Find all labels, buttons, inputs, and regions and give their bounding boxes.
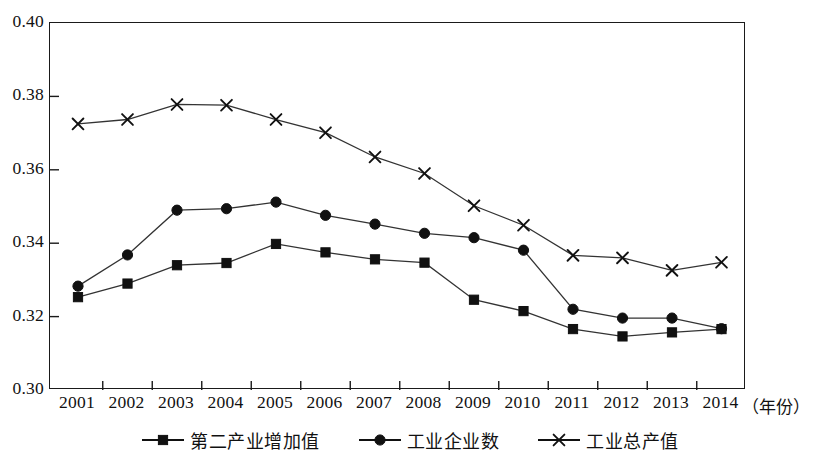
x-axis-tick-label: 2009 [449,394,497,412]
legend-marker-x-icon [537,432,581,448]
x-axis-tick-label: 2013 [647,394,695,412]
legend-item-label: 工业企业数 [407,427,500,453]
legend-item-label: 工业总产值 [586,427,679,453]
legend-item[interactable]: 工业企业数 [358,427,500,453]
x-axis-tick-label: 2012 [598,394,646,412]
chart-page: 0.400.380.360.340.320.30 200120022003200… [0,0,820,461]
legend-item[interactable]: 第二产业增加值 [141,427,320,453]
x-axis-tick-label: 2004 [202,394,250,412]
x-axis-tick-label: 2003 [152,394,200,412]
x-axis-tick-label: 2010 [499,394,547,412]
legend-item[interactable]: 工业总产值 [537,427,679,453]
x-axis-tick-label: 2011 [548,394,596,412]
x-axis-tick-label: 2005 [251,394,299,412]
legend-item-label: 第二产业增加值 [190,427,320,453]
x-axis-tick-label: 2001 [53,394,101,412]
x-axis-tick-label: 2006 [301,394,349,412]
legend-marker-circle-icon [358,432,402,448]
chart-legend: 第二产业增加值工业企业数工业总产值 [0,427,820,453]
x-axis-unit-label: （年份） [742,393,810,418]
x-axis-tick-label: 2008 [400,394,448,412]
x-axis-tick-label: 2014 [697,394,745,412]
x-axis-tick-label: 2002 [103,394,151,412]
x-axis: 2001200220032004200520062007200820092010… [0,0,820,461]
x-axis-tick-label: 2007 [350,394,398,412]
legend-marker-square-icon [141,432,185,448]
